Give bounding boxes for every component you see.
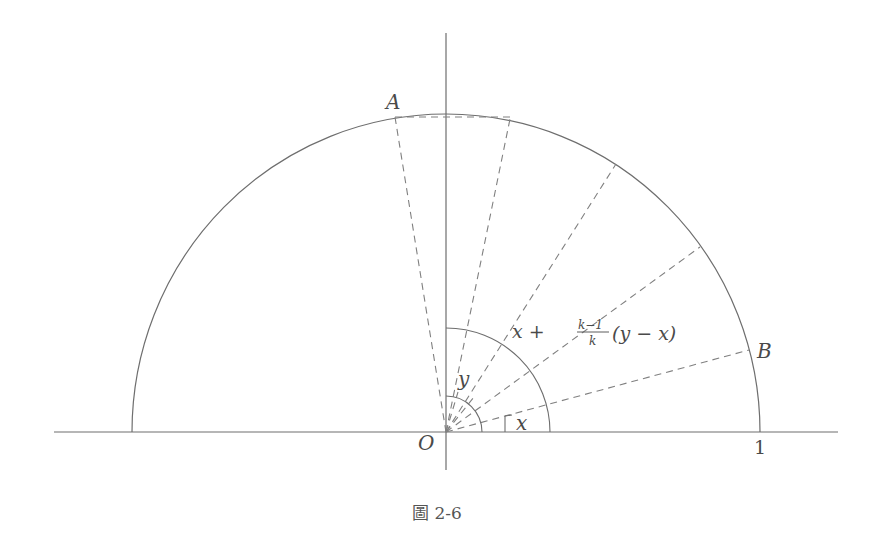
label-A: A <box>384 90 400 114</box>
ray-2 <box>446 119 510 432</box>
label-y: y <box>457 367 470 391</box>
label-B: B <box>756 339 772 363</box>
label-one: 1 <box>754 436 766 458</box>
formula-suffix: (y − x) <box>612 322 676 344</box>
label-x: x <box>516 411 527 435</box>
ray-inner-b <box>446 392 458 432</box>
formula-denominator: k <box>589 334 596 348</box>
ray-to-A <box>395 117 446 432</box>
formula-numerator: k−1 <box>578 318 603 332</box>
angle-arc-x-hook <box>505 415 512 416</box>
label-O: O <box>418 431 434 455</box>
semicircle-diagram: A B O 1 x y x + k−1 k (y − x) 圖 2-6 <box>0 0 883 550</box>
dashed-rays <box>395 117 749 432</box>
ray-to-B <box>446 350 749 432</box>
figure-caption: 圖 2-6 <box>412 503 462 523</box>
formula-label: x + k−1 k (y − x) <box>512 318 676 348</box>
formula-prefix: x + <box>512 320 545 342</box>
ray-3 <box>446 164 616 432</box>
